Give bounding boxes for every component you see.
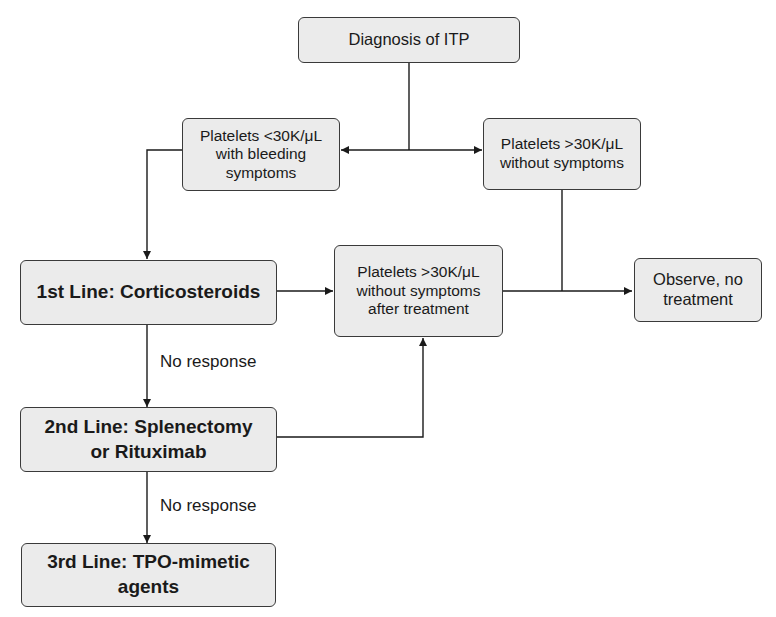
node-observe: Observe, no treatment (634, 258, 762, 322)
edge-label-no-response-2: No response (160, 496, 256, 516)
node-diagnosis: Diagnosis of ITP (298, 17, 520, 63)
node-diagnosis-text: Diagnosis of ITP (348, 30, 469, 50)
node-first-line-text: 1st Line: Corticosteroids (37, 280, 261, 305)
node-after-treatment-text: Platelets >30K/μL without symptoms after… (356, 263, 480, 319)
node-after-treatment: Platelets >30K/μL without symptoms after… (334, 245, 503, 337)
node-high-platelets-text: Platelets >30K/μL without symptoms (500, 135, 624, 172)
edge-second-line-to-after-treatment (276, 338, 423, 437)
node-third-line-text: 3rd Line: TPO-mimetic agents (47, 550, 250, 599)
node-observe-text: Observe, no treatment (653, 270, 743, 310)
edge-low-to-first-line (147, 150, 182, 259)
node-third-line: 3rd Line: TPO-mimetic agents (21, 543, 276, 607)
node-second-line: 2nd Line: Splenectomy or Rituximab (20, 407, 277, 472)
edge-label-no-response-1: No response (160, 352, 256, 372)
node-low-platelets-text: Platelets <30K/μL with bleeding symptoms (200, 127, 322, 183)
node-low-platelets: Platelets <30K/μL with bleeding symptoms (182, 118, 340, 191)
flowchart-canvas: Diagnosis of ITP Platelets <30K/μL with … (0, 0, 776, 617)
node-high-platelets: Platelets >30K/μL without symptoms (483, 118, 641, 190)
node-first-line: 1st Line: Corticosteroids (20, 260, 277, 325)
node-second-line-text: 2nd Line: Splenectomy or Rituximab (45, 415, 253, 464)
